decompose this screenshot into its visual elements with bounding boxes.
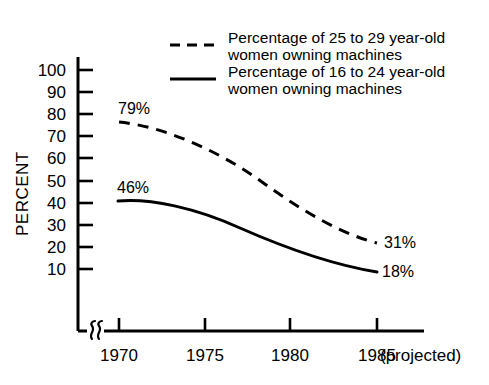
y-tick-label-90: 90 (14, 84, 66, 101)
y-tick-label-10: 10 (14, 261, 66, 278)
y-tick-label-80: 80 (14, 106, 66, 123)
y-tick-label-40: 40 (14, 195, 66, 212)
y-tick-label-100: 100 (14, 62, 66, 79)
x-tick-label-1970: 1970 (74, 347, 164, 364)
series-line-dashed-25-29 (119, 122, 377, 243)
y-tick-label-30: 30 (14, 217, 66, 234)
x-axis-ticks (119, 318, 377, 331)
legend-entry-16-24-line1: Percentage of 16 to 24 year-old (228, 63, 445, 80)
y-axis-ticks (78, 70, 93, 269)
axis-break-squiggle-icon (87, 321, 104, 339)
legend-entry-25-29-line2: women owning machines (228, 46, 402, 63)
x-tick-label-1975: 1975 (160, 347, 250, 364)
legend-entry-16-24-line2: women owning machines (228, 80, 402, 97)
x-tick-label-1980: 1980 (245, 347, 335, 364)
y-tick-label-20: 20 (14, 239, 66, 256)
y-tick-label-70: 70 (14, 128, 66, 145)
x-axis-projected-note: (projected) (380, 347, 489, 364)
chart-figure: PERCENT 100 90 80 70 60 50 40 30 20 10 1… (0, 0, 489, 385)
series-line-solid-16-24 (118, 200, 377, 272)
data-label-dashed-start-79: 79% (118, 101, 150, 117)
y-tick-label-60: 60 (14, 150, 66, 167)
data-label-solid-start-46: 46% (117, 180, 149, 196)
y-tick-label-50: 50 (14, 173, 66, 190)
data-label-solid-end-18: 18% (382, 264, 414, 280)
data-label-dashed-end-31: 31% (384, 235, 416, 251)
legend-entry-25-29-line1: Percentage of 25 to 29 year-old (228, 29, 445, 46)
